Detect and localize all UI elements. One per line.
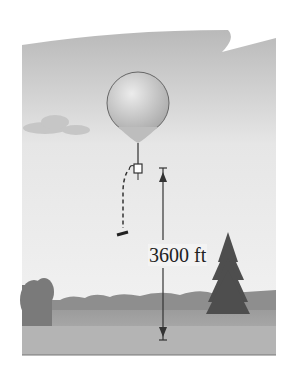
instrument-package-icon — [134, 164, 142, 173]
balloon-scene — [0, 0, 294, 371]
height-label: 3600 ft — [148, 244, 207, 266]
bushes — [20, 278, 54, 326]
balloon — [107, 72, 169, 134]
